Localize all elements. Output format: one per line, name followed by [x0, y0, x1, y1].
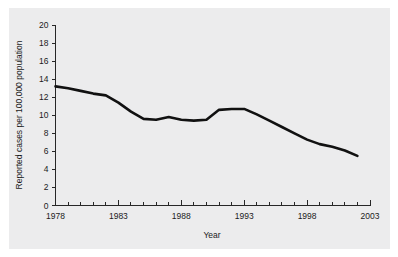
y-tick-label: 14 — [39, 74, 49, 84]
chart-figure: 02468101214161820 1978198319881993199820… — [0, 0, 398, 257]
y-tick-label: 10 — [39, 110, 49, 120]
x-tick-label: 1988 — [172, 211, 191, 221]
y-tick-label: 2 — [44, 182, 49, 192]
x-tick-label: 2003 — [361, 211, 380, 221]
y-tick-label: 6 — [44, 146, 49, 156]
y-tick-label: 0 — [44, 201, 49, 211]
data-series-line — [56, 86, 358, 155]
y-axis-ticks — [52, 25, 56, 206]
line-chart: 02468101214161820 1978198319881993199820… — [0, 0, 398, 257]
x-axis-minor-ticks — [68, 202, 357, 206]
x-axis-major-ticks — [56, 200, 371, 206]
x-axis-title: Year — [203, 230, 220, 240]
y-tick-label: 8 — [44, 128, 49, 138]
x-tick-label: 1978 — [46, 211, 65, 221]
y-axis-tick-labels: 02468101214161820 — [39, 20, 49, 211]
y-axis-title: Reported cases per 100,000 population — [14, 40, 24, 189]
x-axis-tick-labels: 197819831988199319982003 — [46, 211, 380, 221]
x-tick-label: 1993 — [235, 211, 254, 221]
y-tick-label: 4 — [44, 164, 49, 174]
y-tick-label: 16 — [39, 56, 49, 66]
y-tick-label: 20 — [39, 20, 49, 30]
x-tick-label: 1983 — [109, 211, 128, 221]
y-tick-label: 18 — [39, 38, 49, 48]
y-tick-label: 12 — [39, 92, 49, 102]
x-tick-label: 1998 — [298, 211, 317, 221]
